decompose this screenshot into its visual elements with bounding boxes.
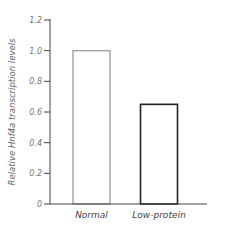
bar-chart: 00.20.40.60.81.01.2 NormalLow-protein Re… bbox=[0, 0, 236, 233]
y-tick-label: 0.2 bbox=[29, 169, 42, 178]
x-tick-label: Normal bbox=[75, 210, 108, 220]
y-axis-title: Relative Hnf4a transcription levels bbox=[7, 38, 17, 185]
x-axis: NormalLow-protein bbox=[50, 204, 207, 220]
y-tick-label: 0.4 bbox=[29, 139, 42, 148]
y-tick-label: 0.8 bbox=[29, 77, 42, 86]
y-tick-label: 0.6 bbox=[29, 108, 42, 117]
y-axis: 00.20.40.60.81.01.2 bbox=[29, 16, 50, 209]
y-tick-label: 0 bbox=[37, 200, 42, 209]
bars bbox=[73, 51, 178, 204]
bar-low-protein bbox=[141, 104, 178, 204]
bar-normal bbox=[73, 51, 110, 204]
y-tick-label: 1.0 bbox=[29, 47, 42, 56]
y-tick-label: 1.2 bbox=[29, 16, 42, 25]
x-tick-label: Low-protein bbox=[132, 210, 186, 220]
